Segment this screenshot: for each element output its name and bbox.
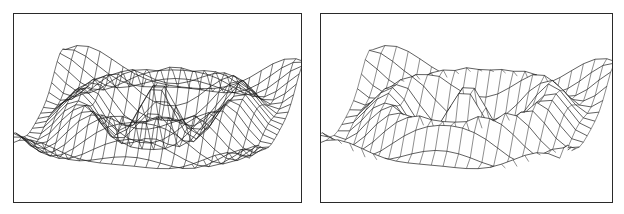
mesh-column-line	[112, 86, 115, 100]
mesh-column-line	[24, 135, 27, 136]
mesh-column-line	[266, 124, 269, 129]
mesh-column-line	[240, 99, 243, 105]
mesh-column-line	[60, 93, 63, 100]
mesh-column-line	[156, 101, 159, 117]
mesh-column-line	[49, 83, 52, 93]
mesh-column-line	[269, 144, 272, 147]
mesh-column-line	[172, 154, 175, 166]
mesh-column-line	[71, 50, 74, 59]
mesh-column-line	[159, 90, 162, 114]
mesh-row-line	[63, 49, 301, 93]
mesh-column-line	[212, 149, 215, 161]
mesh-column-line	[167, 67, 170, 83]
mesh-column-line	[82, 140, 85, 154]
mesh-column-line	[365, 50, 369, 59]
mesh-column-line	[171, 123, 174, 133]
mesh-column-line	[140, 123, 143, 140]
mesh-column-line	[57, 53, 60, 61]
mesh-column-line	[280, 125, 283, 130]
mesh-column-line	[293, 59, 296, 63]
mesh-column-line	[69, 60, 72, 72]
mesh-column-line	[139, 142, 142, 149]
mesh-column-line	[361, 60, 365, 74]
mesh-column-line	[274, 135, 277, 140]
mesh-column-line	[346, 110, 350, 118]
mesh-column-line	[338, 125, 342, 131]
mesh-column-line	[285, 112, 288, 119]
mesh-column-line	[184, 70, 187, 79]
mesh-column-line	[124, 100, 127, 115]
mesh-column-line	[155, 71, 158, 80]
mesh-column-line	[126, 139, 129, 156]
mesh-column-line	[199, 77, 202, 95]
mesh-column-line	[232, 123, 235, 135]
mesh-column-line	[86, 46, 89, 56]
wireframe-surface-left	[14, 14, 301, 202]
mesh-row-line	[60, 53, 301, 95]
mesh-column-line	[229, 154, 232, 158]
mesh-column-line	[94, 133, 97, 150]
mesh-column-line	[137, 129, 140, 143]
mesh-column-line	[263, 129, 266, 135]
mesh-column-line	[257, 106, 260, 109]
mesh-column-line	[91, 149, 94, 160]
mesh-column-line	[96, 119, 99, 133]
mesh-column-line	[350, 101, 354, 110]
mesh-column-line	[271, 117, 274, 120]
mesh-column-line	[142, 139, 145, 149]
mesh-column-line	[142, 105, 145, 114]
mesh-column-line	[283, 119, 286, 125]
mesh-column-line	[369, 50, 373, 51]
mesh-column-line	[244, 150, 247, 153]
mesh-column-line	[217, 121, 220, 135]
surface-plot-left	[13, 13, 302, 203]
mesh-column-line	[254, 109, 257, 114]
mesh-column-line	[110, 100, 113, 112]
mesh-column-line	[200, 138, 203, 154]
mesh-column-line	[321, 133, 322, 135]
mesh-column-line	[120, 67, 123, 81]
mesh-column-line	[243, 95, 246, 100]
mesh-column-line	[237, 105, 240, 113]
mesh-column-line	[63, 83, 66, 93]
mesh-column-line	[131, 142, 134, 146]
mesh-column-line	[183, 160, 186, 168]
mesh-column-line	[220, 111, 223, 121]
mesh-column-line	[196, 96, 199, 115]
mesh-column-line	[80, 69, 83, 82]
mesh-column-line	[277, 130, 280, 135]
mesh-column-line	[46, 92, 49, 100]
mesh-column-line	[194, 116, 197, 117]
mesh-column-line	[83, 56, 86, 69]
mesh-column-line	[243, 138, 246, 148]
mesh-column-line	[257, 141, 260, 147]
mesh-column-line	[260, 135, 263, 142]
mesh-column-line	[249, 120, 252, 128]
mesh-row-line	[14, 140, 250, 169]
mesh-column-line	[150, 101, 153, 118]
mesh-column-line	[246, 153, 249, 155]
mesh-column-line	[357, 74, 361, 89]
mesh-column-line	[30, 128, 33, 132]
mesh-column-line	[149, 143, 152, 160]
mesh-column-line	[41, 107, 44, 113]
mesh-column-line	[123, 157, 126, 165]
mesh-column-line	[95, 94, 98, 101]
mesh-column-line	[277, 109, 280, 113]
mesh-column-line	[260, 105, 263, 106]
mesh-column-line	[43, 101, 46, 108]
mesh-column-line	[148, 129, 151, 143]
mesh-column-line	[60, 49, 63, 53]
mesh-row-line	[24, 111, 266, 153]
mesh-column-line	[150, 86, 153, 90]
mesh-column-line	[186, 145, 189, 161]
mesh-column-line	[114, 141, 117, 157]
mesh-column-line	[330, 135, 334, 136]
mesh-column-line	[146, 160, 149, 168]
mesh-column-line	[111, 157, 114, 164]
mesh-column-line	[272, 140, 275, 144]
mesh-column-line	[354, 89, 358, 101]
wireframe-surface-right	[321, 14, 612, 202]
mesh-column-line	[215, 155, 218, 159]
mesh-column-line	[151, 125, 154, 143]
